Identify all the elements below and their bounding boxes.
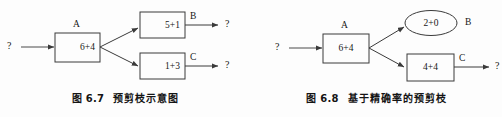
output-bot-marker: ? [225,60,229,70]
figure-6-8-caption: 图 6.8基于精确率的预剪枝 [251,90,502,105]
node-branch-top-value: 5+1 [150,21,195,31]
node-branch-top-label: B [465,18,471,28]
figure-6-7: ? A 6+4 5+1 B 1+3 C ? ? 图 6.7预剪枝示意图 [0,0,251,117]
figure-6-8-caption-number: 图 6.8 [306,93,338,104]
figure-6-8-caption-text: 基于精确率的预剪枝 [348,93,447,104]
edge-root-to-branch-top [369,27,404,48]
output-bot-marker: ? [495,61,499,71]
node-branch-top-value: 2+0 [408,19,454,29]
figure-6-8-diagram: ? A 6+4 2+0 B 4+4 C ? [251,0,502,88]
node-root-value: 6+4 [323,44,369,54]
node-branch-top-label: B [190,12,196,22]
node-branch-bot-value: 4+4 [407,63,454,73]
figure-6-8: ? A 6+4 2+0 B 4+4 C ? 图 6.8基于精确率的预剪枝 [251,0,502,117]
node-root-label: A [73,20,80,30]
figure-6-7-caption-text: 预剪枝示意图 [113,93,179,104]
figure-6-7-caption-number: 图 6.7 [72,93,104,104]
node-branch-bot-value: 1+3 [150,62,195,72]
figure-sheet: ? A 6+4 5+1 B 1+3 C ? ? 图 6.7预剪枝示意图 [0,0,502,117]
output-top-marker: ? [225,19,229,29]
node-root-label: A [341,21,348,31]
input-marker: ? [7,41,11,51]
node-branch-bot-label: C [459,54,465,64]
node-root-value: 6+4 [65,43,110,53]
figure-6-7-caption: 图 6.7预剪枝示意图 [0,90,251,105]
edge-root-to-branch-bot [369,48,404,67]
node-branch-bot-label: C [190,53,196,63]
figure-6-7-diagram: ? A 6+4 5+1 B 1+3 C ? ? [0,0,251,88]
input-marker: ? [275,42,279,52]
